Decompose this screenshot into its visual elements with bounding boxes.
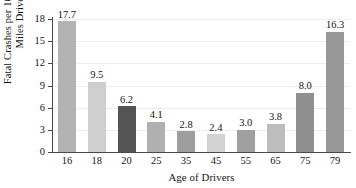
bar-value-label: 6.2 xyxy=(120,95,133,105)
bar[interactable]: 3.8 xyxy=(267,124,285,152)
y-axis-title: Fatal Crashes per 100 Million Miles Driv… xyxy=(0,0,28,94)
x-tick-label: 35 xyxy=(171,155,201,166)
y-tick-mark xyxy=(48,108,52,109)
bar[interactable]: 3.0 xyxy=(237,130,255,152)
bar[interactable]: 16.3 xyxy=(326,32,344,152)
y-tick-label: 12 xyxy=(25,58,45,68)
y-tick-label: 15 xyxy=(25,36,45,46)
bar-value-label: 16.3 xyxy=(326,20,344,30)
plot-area: 17.79.56.24.12.82.43.03.88.016.3 xyxy=(52,19,350,152)
y-tick-mark xyxy=(48,130,52,131)
bar[interactable]: 8.0 xyxy=(296,93,314,152)
y-tick-label: 0 xyxy=(25,147,45,157)
bar-value-label: 3.0 xyxy=(239,118,252,128)
x-axis-title: Age of Drivers xyxy=(52,171,351,183)
x-tick-label: 45 xyxy=(201,155,231,166)
bar-value-label: 2.4 xyxy=(209,123,222,133)
y-tick-mark xyxy=(48,86,52,87)
bar-value-label: 8.0 xyxy=(299,81,312,91)
y-axis-title-line-1: Fatal Crashes per 100 Million xyxy=(2,0,14,84)
y-tick-label: 3 xyxy=(25,125,45,135)
x-axis-line xyxy=(52,152,351,153)
x-tick-label: 79 xyxy=(320,155,350,166)
bar-value-label: 4.1 xyxy=(150,110,163,120)
gridline xyxy=(53,19,350,20)
bar[interactable]: 9.5 xyxy=(88,82,106,152)
gridline xyxy=(53,63,350,64)
bar[interactable]: 17.7 xyxy=(58,21,76,152)
bar-value-label: 9.5 xyxy=(90,70,103,80)
y-tick-label: 18 xyxy=(25,14,45,24)
y-tick-mark xyxy=(48,63,52,64)
bar[interactable]: 2.8 xyxy=(177,131,195,152)
bar[interactable]: 2.4 xyxy=(207,134,225,152)
x-tick-label: 20 xyxy=(112,155,142,166)
x-tick-label: 55 xyxy=(231,155,261,166)
x-tick-label: 25 xyxy=(141,155,171,166)
y-tick-mark xyxy=(48,41,52,42)
y-tick-label: 6 xyxy=(25,103,45,113)
x-tick-label: 75 xyxy=(290,155,320,166)
bar-value-label: 17.7 xyxy=(58,10,76,20)
gridline xyxy=(53,41,350,42)
x-tick-label: 16 xyxy=(52,155,82,166)
x-tick-label: 65 xyxy=(261,155,291,166)
bar-value-label: 2.8 xyxy=(180,120,193,130)
x-tick-label: 18 xyxy=(82,155,112,166)
bar-value-label: 3.8 xyxy=(269,112,282,122)
y-tick-mark xyxy=(48,19,52,20)
y-tick-label: 9 xyxy=(25,81,45,91)
bar[interactable]: 6.2 xyxy=(118,106,136,152)
bar-chart-figure: Fatal Crashes per 100 Million Miles Driv… xyxy=(0,0,356,188)
bar[interactable]: 4.1 xyxy=(147,122,165,152)
y-tick-mark xyxy=(48,152,52,153)
